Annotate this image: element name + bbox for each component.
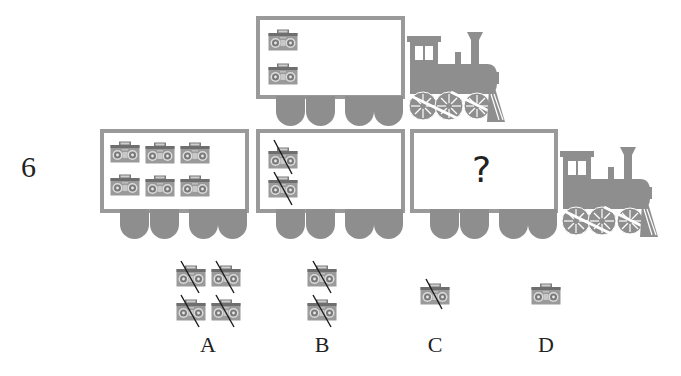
strike-line: [268, 139, 298, 175]
boombox-icon: [110, 141, 140, 163]
wheel: [189, 209, 218, 239]
crossed-boombox: [268, 143, 298, 173]
option-label: C: [420, 332, 450, 358]
wheel: [120, 209, 149, 239]
wheel: [374, 96, 403, 126]
option-b[interactable]: B: [307, 262, 337, 362]
crossed-boombox: [176, 265, 206, 295]
option-d[interactable]: D: [531, 262, 561, 362]
crossed-boombox: [211, 265, 241, 295]
boombox-icon: [145, 142, 175, 164]
wheel: [345, 209, 374, 239]
locomotive-icon: [558, 136, 658, 238]
wheel: [499, 209, 528, 239]
strike-line: [176, 294, 206, 330]
boombox-icon: [180, 142, 210, 164]
boombox-icon: [180, 175, 210, 197]
strike-line: [307, 294, 337, 330]
strike-line: [211, 260, 241, 296]
strike-line: [420, 278, 450, 314]
crossed-boombox: [211, 299, 241, 329]
option-label: A: [193, 332, 223, 358]
wheel: [460, 209, 489, 239]
boombox-icon: [145, 175, 175, 197]
wheel: [150, 209, 179, 239]
option-label: D: [531, 332, 561, 358]
boombox-icon: [268, 63, 298, 85]
strike-line: [307, 260, 337, 296]
bottom-train-car-1: [100, 129, 250, 239]
option-c[interactable]: C: [420, 262, 450, 362]
bottom-train-car-3: ?: [410, 129, 560, 239]
wheel: [374, 209, 403, 239]
wheel: [276, 96, 305, 126]
crossed-boombox: [268, 176, 298, 206]
strike-line: [211, 294, 241, 330]
wheel: [218, 209, 247, 239]
wheel: [306, 209, 335, 239]
boombox-icon: [268, 29, 298, 51]
option-label: B: [307, 332, 337, 358]
boombox-icon: [110, 174, 140, 196]
wheel: [306, 96, 335, 126]
crossed-boombox: [307, 265, 337, 295]
strike-line: [176, 260, 206, 296]
crossed-boombox: [420, 283, 450, 313]
unknown-question-mark: ?: [472, 149, 491, 190]
wheel: [276, 209, 305, 239]
crossed-boombox: [307, 299, 337, 329]
top-train-car: [256, 16, 406, 123]
bottom-train-car-2: [256, 129, 406, 239]
strike-line: [268, 171, 298, 207]
boombox-icon: [531, 283, 561, 305]
locomotive-icon: [405, 22, 505, 122]
wheel: [345, 96, 374, 126]
option-a[interactable]: A: [176, 262, 246, 362]
question-number: 6: [21, 150, 36, 184]
crossed-boombox: [176, 299, 206, 329]
wheel: [430, 209, 459, 239]
wheel: [528, 209, 557, 239]
